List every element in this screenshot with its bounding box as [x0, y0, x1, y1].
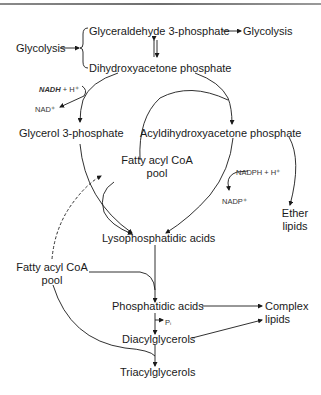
byproduct-pi: Pᵢ: [165, 316, 171, 329]
node-glyceraldehyde-3-phosphate: Glyceraldehyde 3-phosphate: [89, 25, 230, 38]
cofactor-nadp: NADP⁺: [222, 195, 247, 208]
arrow-acyldhap-to-lyso: [166, 138, 233, 233]
node-fatty-acyl-coa-pool-upper: Fatty acyl CoA pool: [121, 154, 193, 180]
arrow-dhap-to-acyldhap: [195, 73, 232, 124]
cofactor-nad: NAD⁺: [35, 103, 55, 116]
arrow-dhap-to-g3p: [80, 73, 118, 122]
complex-line1: Complex: [265, 300, 308, 313]
node-glycolysis-out: Glycolysis: [243, 25, 293, 38]
pool-lower-line1: Fatty acyl CoA: [16, 261, 88, 274]
complex-line2: lipids: [265, 313, 308, 326]
node-ether-lipids: Ether lipids: [278, 207, 312, 233]
node-dihydroxyacetone-phosphate: Dihydroxyacetone phosphate: [89, 62, 231, 75]
node-acyldihydroxyacetone-phosphate: Acyldihydroxyacetone phosphate: [140, 127, 301, 140]
node-triacylglycerols: Triacylglycerols: [120, 366, 195, 379]
node-lysophosphatidic-acids: Lysophosphatidic acids: [102, 232, 215, 245]
node-fatty-acyl-coa-pool-lower: Fatty acyl CoA pool: [16, 261, 88, 287]
arrow-dag-to-complex: [192, 320, 262, 338]
ether-line2: lipids: [278, 220, 312, 233]
node-glycerol-3-phosphate: Glycerol 3-phosphate: [19, 127, 124, 140]
nadh-label: NADH: [39, 85, 61, 94]
brace: [80, 28, 88, 68]
pool-lower-line2: pool: [16, 274, 88, 287]
ether-line1: Ether: [278, 207, 312, 220]
arrow-to-ether: [289, 137, 296, 205]
node-complex-lipids: Complex lipids: [265, 300, 308, 326]
node-phosphatidic-acids: Phosphatidic acids: [112, 300, 204, 313]
cofactor-nadph: NADPH + H⁺: [236, 166, 280, 179]
pool-upper-line2: pool: [121, 167, 193, 180]
dashed-arrow-pool: [52, 176, 101, 259]
node-glycolysis-in: Glycolysis: [16, 42, 66, 55]
node-diacylglycerols: Diacylglycerols: [122, 333, 195, 346]
cofactor-nadh: NADH + H⁺: [39, 83, 79, 96]
nadh-plus-h: + H⁺: [63, 85, 79, 94]
pool-upper-line1: Fatty acyl CoA: [121, 154, 193, 167]
